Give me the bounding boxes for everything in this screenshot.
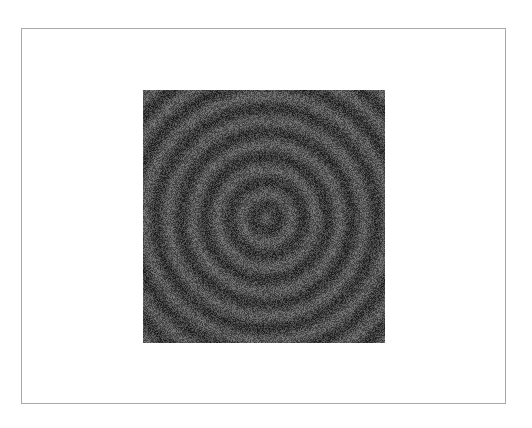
canvas-stage (0, 0, 532, 428)
concentric-ring-image (143, 90, 385, 343)
ring-pattern-canvas (143, 90, 385, 343)
